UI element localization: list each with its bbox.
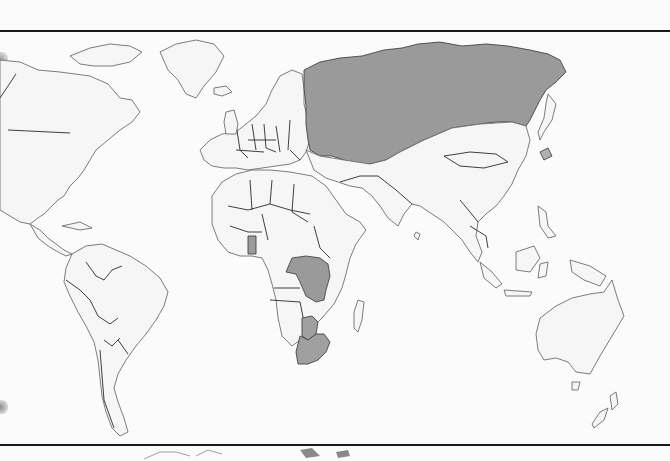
australia [536, 280, 624, 374]
south-america [64, 244, 168, 436]
europe [200, 70, 310, 170]
country-south-africa [296, 334, 330, 364]
country-ghana [248, 236, 256, 254]
world-map [0, 0, 670, 461]
great-britain [224, 110, 238, 134]
north-america [0, 60, 140, 224]
south-korea [540, 148, 552, 160]
indonesia [480, 246, 606, 296]
bleed-through-outline [144, 450, 222, 459]
new-zealand [592, 392, 618, 428]
tasmania [572, 382, 580, 390]
sri-lanka [414, 232, 420, 240]
africa [212, 170, 366, 346]
arctic-islands [70, 44, 142, 66]
cuba [62, 222, 92, 230]
madagascar [354, 300, 364, 332]
japan [538, 94, 556, 140]
philippines [538, 206, 556, 238]
bleed-through-shape [300, 448, 350, 458]
central-america [30, 224, 72, 256]
iceland [214, 86, 232, 96]
map-svg [0, 0, 670, 461]
